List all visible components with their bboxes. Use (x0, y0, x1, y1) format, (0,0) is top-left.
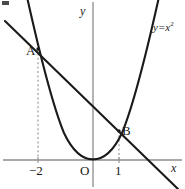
point-a-label: A (26, 44, 35, 57)
origin-label: O (80, 164, 89, 177)
point-b-label: B (122, 124, 131, 137)
math-figure: A B x y O −2 1 y=x2 (0, 0, 185, 189)
curve-equation-exponent: 2 (170, 20, 174, 28)
x-tick-label-minus-two: −2 (29, 164, 43, 177)
point-b-marker (117, 129, 120, 132)
x-axis-label: x (171, 162, 176, 174)
curve-equation-label: y=x2 (153, 21, 174, 33)
x-tick-label-one: 1 (115, 164, 122, 177)
y-axis-label: y (80, 5, 85, 17)
point-a-marker (36, 47, 39, 50)
